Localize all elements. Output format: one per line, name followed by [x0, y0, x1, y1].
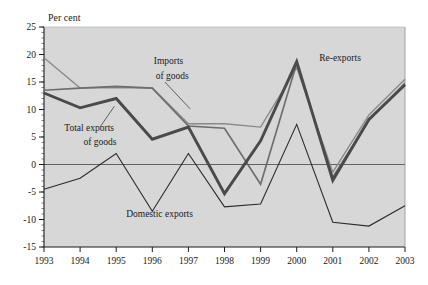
series-annotation-label: Imports	[154, 56, 184, 66]
chart-canvas: -15-10-50510152025 199319941995199619971…	[0, 0, 428, 285]
series-annotation-label: Domestic exports	[126, 209, 193, 219]
x-tick-label: 2000	[287, 256, 306, 266]
y-tick-label: 20	[27, 50, 37, 60]
y-tick-label: 0	[31, 160, 36, 170]
x-tick-label: 2002	[359, 256, 378, 266]
y-axis-title: Per cent	[48, 12, 81, 23]
x-tick-label: 1998	[215, 256, 234, 266]
y-tick-label: 10	[27, 105, 37, 115]
series-annotation-label: of goods	[156, 71, 189, 81]
x-tick-label: 1997	[179, 256, 198, 266]
y-tick-label: 25	[27, 22, 37, 32]
y-tick-label: 5	[31, 132, 36, 142]
y-tick-label: -5	[28, 187, 36, 197]
series-annotation-label: Re-exports	[319, 53, 361, 63]
x-tick-label: 1994	[71, 256, 90, 266]
x-tick-label: 1996	[143, 256, 162, 266]
x-tick-label: 1999	[251, 256, 270, 266]
y-tick-label: -10	[23, 215, 36, 225]
series-annotation-label: of goods	[83, 137, 116, 147]
y-tick-label: 15	[27, 77, 37, 87]
y-tick-label: -15	[23, 242, 36, 252]
x-tick-label: 2001	[323, 256, 342, 266]
series-annotation-label: Total exports	[64, 123, 114, 133]
x-tick-label: 1993	[35, 256, 54, 266]
line-chart: -15-10-50510152025 199319941995199619971…	[0, 0, 428, 285]
x-tick-label: 2003	[396, 256, 415, 266]
x-tick-label: 1995	[107, 256, 126, 266]
